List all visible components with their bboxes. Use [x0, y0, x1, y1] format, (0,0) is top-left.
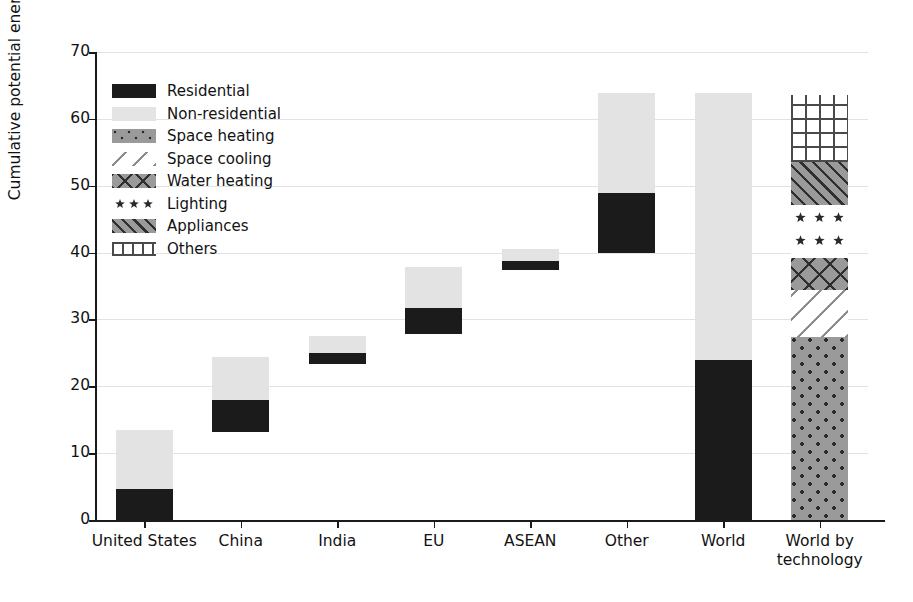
bar-segment: [695, 360, 752, 520]
x-axis-line: [95, 520, 885, 522]
gridline: [96, 319, 868, 320]
bar-segment: [309, 336, 366, 353]
bar-segment: [116, 430, 173, 489]
bar-segment: [791, 205, 848, 258]
bar-segment: [791, 337, 848, 520]
chart-legend: ResidentialNon-residentialSpace heatingS…: [112, 80, 327, 260]
bar-segment: [212, 400, 269, 431]
y-axis-title: Cumulative potential energy savings (PWh…: [6, 0, 34, 312]
y-tick-label: 50: [52, 176, 90, 194]
x-tick-mark: [627, 521, 629, 528]
y-tick-label: 40: [52, 243, 90, 261]
y-tick: 30: [44, 319, 90, 320]
chart-figure: Cumulative potential energy savings (PWh…: [0, 0, 913, 602]
y-tick: 50: [44, 186, 90, 187]
legend-item: Lighting: [112, 193, 327, 216]
y-tick-label: 60: [52, 109, 90, 127]
legend-item: Non-residential: [112, 103, 327, 126]
bar-segment: [791, 258, 848, 290]
legend-item: Others: [112, 238, 327, 261]
y-tick-label: 30: [52, 309, 90, 327]
bar-segment: [309, 353, 366, 364]
x-tick-label-line: technology: [750, 551, 890, 570]
y-tick-label: 10: [52, 443, 90, 461]
legend-label: Others: [167, 240, 217, 258]
legend-item: Space cooling: [112, 148, 327, 171]
x-tick-mark: [337, 521, 339, 528]
bar-segment: [405, 308, 462, 334]
legend-label: Lighting: [167, 195, 228, 213]
bar-segment: [405, 267, 462, 308]
bar-segment: [598, 193, 655, 253]
x-tick-label: World bytechnology: [750, 532, 890, 570]
light-gray-swatch: [112, 107, 156, 121]
y-tick: 60: [44, 119, 90, 120]
bar-segment: [791, 95, 848, 162]
bar-segment: [116, 489, 173, 520]
bar-segment: [791, 162, 848, 205]
x-tick-label-line: World by: [750, 532, 890, 551]
legend-item: Water heating: [112, 170, 327, 193]
x-tick-mark: [530, 521, 532, 528]
bar-segment: [695, 93, 752, 360]
gridline: [96, 453, 868, 454]
legend-label: Residential: [167, 82, 250, 100]
star-swatch: [112, 197, 156, 211]
x-tick-mark: [241, 521, 243, 528]
legend-label: Non-residential: [167, 105, 281, 123]
y-axis-line: [95, 52, 97, 521]
dotted-gray-swatch: [112, 129, 156, 143]
bar-segment: [212, 357, 269, 400]
bar-segment: [791, 290, 848, 337]
bar-segment: [502, 261, 559, 270]
y-tick: 70: [44, 52, 90, 53]
legend-item: Appliances: [112, 215, 327, 238]
legend-label: Water heating: [167, 172, 273, 190]
x-tick-mark: [820, 521, 822, 528]
x-tick-mark: [144, 521, 146, 528]
y-tick: 40: [44, 253, 90, 254]
bar-segment: [598, 93, 655, 193]
legend-label: Space heating: [167, 127, 274, 145]
legend-item: Residential: [112, 80, 327, 103]
gridline: [96, 52, 868, 53]
grid-swatch: [112, 242, 156, 256]
legend-label: Appliances: [167, 217, 249, 235]
y-tick-label: 0: [52, 510, 90, 528]
legend-label: Space cooling: [167, 150, 271, 168]
x-tick-mark: [434, 521, 436, 528]
diagonal-line-swatch: [112, 152, 156, 166]
y-tick-label: 70: [52, 42, 90, 60]
legend-item: Space heating: [112, 125, 327, 148]
x-tick-mark: [723, 521, 725, 528]
y-tick: 20: [44, 386, 90, 387]
y-tick: 0: [44, 520, 90, 521]
crosshatch-swatch: [112, 174, 156, 188]
solid-black-swatch: [112, 84, 156, 98]
y-tick-label: 20: [52, 376, 90, 394]
diagonal-hatch-swatch: [112, 219, 156, 233]
bar-segment: [502, 249, 559, 262]
y-tick: 10: [44, 453, 90, 454]
